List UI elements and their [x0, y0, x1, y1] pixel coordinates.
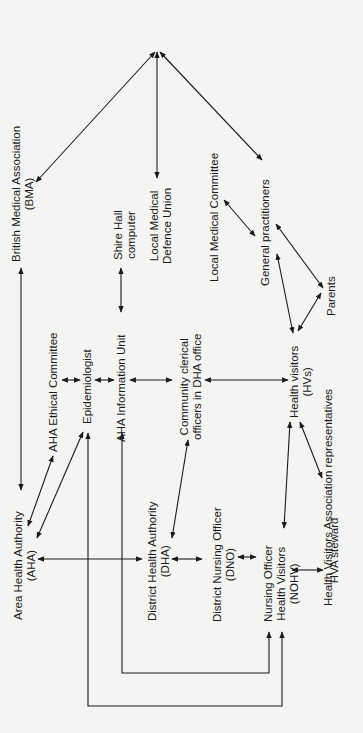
lmc-to-gp [224, 200, 255, 236]
clerical-to-dha [172, 440, 188, 538]
node-lmdu: Local Medical Defence Union [148, 188, 174, 264]
node-nohv: Nursing Officer Health Visitors (NOHV) [262, 546, 301, 622]
aha-abbrev: (AHA) [25, 511, 38, 620]
clerical-label-2: officers in DHA office [191, 334, 204, 440]
node-lmc: Local Medical Committee [208, 153, 221, 282]
aha-to-epi [37, 432, 83, 538]
info-to-nohv-loop [122, 433, 269, 673]
node-aha-info: AHA Information Unit [115, 335, 128, 442]
apex-to-bma [36, 52, 155, 182]
node-epidemiologist: Epidemiologist [81, 349, 94, 424]
dno-label: District Nursing Officer [211, 507, 224, 622]
aha-info-label: AHA Information Unit [115, 335, 128, 442]
nohv-label: Nursing Officer [262, 546, 275, 622]
node-hva-steward: Health Visitors Association HVA steward [328, 483, 341, 618]
parents-label: Parents [325, 276, 338, 316]
node-gp: General practitioners [259, 179, 272, 286]
node-clerical: Community clerical officers in DHA offic… [178, 334, 204, 440]
hv-abbrev: (HVs) [301, 346, 314, 418]
lmdu-label: Local Medical [148, 188, 161, 264]
node-bma: British Medical Association (BMA) [10, 126, 36, 262]
lmc-label: Local Medical Committee [208, 153, 221, 282]
shire-label: Shire Hall [112, 210, 125, 260]
shire-label-2: computer [125, 210, 138, 260]
dno-abbrev: (DNO) [224, 507, 237, 622]
node-shire-hall: Shire Hall computer [112, 210, 138, 260]
bma-abbrev: (BMA) [23, 126, 36, 262]
lmdu-label-2: Defence Union [161, 188, 174, 264]
clerical-label: Community clerical [178, 334, 191, 440]
node-aha: Area Health Authority (AHA) [12, 511, 38, 620]
hv-label: Health visitors [288, 346, 301, 418]
hva-steward-label-2: HVA steward [328, 483, 341, 618]
node-dha: District Health Authority (DHA) [146, 501, 172, 621]
dha-label: District Health Authority [146, 501, 159, 621]
dha-abbrev: (DHA) [159, 501, 172, 621]
gp-to-parents [276, 224, 323, 288]
parents-to-hv [298, 293, 321, 331]
node-hv: Health visitors (HVs) [288, 346, 314, 418]
gp-label: General practitioners [259, 179, 272, 286]
hv-to-hvarep [300, 422, 322, 478]
node-dno: District Nursing Officer (DNO) [211, 507, 237, 622]
epi-to-nohv-loop [88, 433, 282, 706]
node-parents: Parents [325, 276, 338, 316]
aha-ethical-label: AHA Ethical Committee [47, 332, 60, 452]
gp-to-hv [277, 254, 293, 333]
nohv-label-2: Health Visitors [275, 546, 288, 622]
nohv-abbrev: (NOHV) [288, 546, 301, 622]
bma-label: British Medical Association [10, 126, 23, 262]
aha-label: Area Health Authority [12, 511, 25, 620]
hv-to-nohv [284, 422, 290, 528]
apex-to-gp [160, 52, 262, 160]
epi-label: Epidemiologist [81, 349, 94, 424]
node-aha-ethical: AHA Ethical Committee [47, 332, 60, 452]
